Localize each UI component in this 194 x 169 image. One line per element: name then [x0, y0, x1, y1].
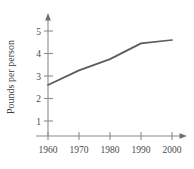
- data-series-line: [48, 40, 172, 85]
- y-axis-arrow-icon: [45, 13, 51, 21]
- y-tick-label-4: 4: [36, 49, 41, 59]
- x-tick-label-2000: 2000: [163, 145, 182, 155]
- x-tick-label-1980: 1980: [101, 145, 120, 155]
- y-axis-title: Pounds per person: [5, 40, 16, 114]
- y-tick-label-3: 3: [36, 72, 41, 82]
- y-tick-label-2: 2: [36, 94, 41, 104]
- y-tick-label-5: 5: [36, 27, 41, 37]
- chart-canvas: 5 4 3 2 1 1960 1970 1980 1990 2000 Pound…: [0, 0, 194, 169]
- line-chart: 5 4 3 2 1 1960 1970 1980 1990 2000 Pound…: [0, 0, 194, 169]
- x-tick-label-1970: 1970: [70, 145, 89, 155]
- x-axis-arrow-icon: [180, 133, 188, 139]
- x-tick-label-1990: 1990: [132, 145, 151, 155]
- x-tick-label-1960: 1960: [39, 145, 58, 155]
- y-tick-label-1: 1: [36, 117, 41, 127]
